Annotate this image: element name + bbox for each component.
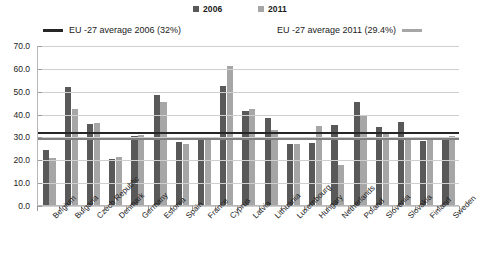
bar-group <box>38 46 60 205</box>
bar-group <box>260 46 282 205</box>
bar-group <box>371 46 393 205</box>
gridline <box>38 92 459 93</box>
gridline <box>38 46 459 47</box>
bar-estonia-2011 <box>160 102 166 205</box>
y-axis-tickmark <box>38 115 42 116</box>
bar-estonia-2006 <box>154 95 160 205</box>
y-axis-tick-label: 40.0 <box>13 110 30 120</box>
bar-group <box>327 46 349 205</box>
bar-lithuania-2011 <box>271 130 277 205</box>
bar-group <box>216 46 238 205</box>
legend-entry-average-2006: EU -27 average 2006 (32%) <box>43 25 181 35</box>
legend-entry-2006: 2006 <box>193 4 222 14</box>
bar-france-2006 <box>198 139 204 205</box>
y-axis: 0.010.020.030.040.050.060.070.0 <box>0 46 34 206</box>
y-axis-tick-label: 50.0 <box>13 87 30 97</box>
y-axis-tick-label: 10.0 <box>13 178 30 188</box>
gridline <box>38 115 459 116</box>
bar-group <box>60 46 82 205</box>
y-axis-tickmark <box>38 183 42 184</box>
bar-belgium-2011 <box>49 158 55 205</box>
bar-group <box>149 46 171 205</box>
legend-label-2011: 2011 <box>268 4 287 14</box>
y-axis-tickmark <box>38 69 42 70</box>
x-axis-tickmark <box>37 206 38 211</box>
x-axis-labels: BelgiumBulgariaCzech RepublicDenmarkGerm… <box>37 212 459 278</box>
bar-group <box>193 46 215 205</box>
bar-group <box>82 46 104 205</box>
gridline <box>38 183 459 184</box>
bar-belgium-2006 <box>43 150 49 205</box>
y-axis-tickmark <box>38 160 42 161</box>
line-marker-icon <box>402 29 422 32</box>
bar-latvia-2006 <box>242 111 248 205</box>
bar-poland-2006 <box>354 102 360 205</box>
y-axis-tick-label: 0.0 <box>18 201 30 211</box>
bar-group <box>105 46 127 205</box>
bar-czech-republic-2011 <box>94 123 100 205</box>
line-marker-icon <box>43 29 63 32</box>
bar-group <box>438 46 460 205</box>
bar-group <box>393 46 415 205</box>
bar-slovenia-2011 <box>383 132 389 205</box>
bar-latvia-2011 <box>249 109 255 205</box>
reference-line-2006 <box>38 132 459 134</box>
bar-slovakia-2006 <box>398 122 404 205</box>
bar-sweden-2011 <box>449 136 455 205</box>
y-axis-tickmark <box>38 46 42 47</box>
legend-label-average-2006: EU -27 average 2006 (32%) <box>69 25 181 35</box>
legend-label-2006: 2006 <box>203 4 222 14</box>
series-legend: 2006 2011 <box>0 4 468 18</box>
bar-group <box>305 46 327 205</box>
bar-cyprus-2006 <box>220 86 226 205</box>
bar-spain-2011 <box>183 144 189 205</box>
average-legend: EU -27 average 2006 (32%) EU -27 average… <box>0 25 468 39</box>
square-marker-icon <box>193 6 199 12</box>
bar-france-2011 <box>205 139 211 205</box>
gridline <box>38 160 459 161</box>
legend-label-average-2011: EU -27 average 2011 (29.4%) <box>277 25 396 35</box>
legend-entry-average-2011: EU -27 average 2011 (29.4%) <box>277 25 422 35</box>
bar-bulgaria-2006 <box>65 87 71 205</box>
legend-entry-2011: 2011 <box>258 4 287 14</box>
y-axis-tick-label: 60.0 <box>13 64 30 74</box>
bar-group <box>171 46 193 205</box>
gridline <box>38 69 459 70</box>
reference-line-2011 <box>38 138 459 140</box>
y-axis-tick-label: 20.0 <box>13 155 30 165</box>
square-marker-icon <box>258 6 264 12</box>
y-axis-tick-label: 30.0 <box>13 132 30 142</box>
bar-group <box>349 46 371 205</box>
bar-group <box>238 46 260 205</box>
plot-area <box>37 46 459 206</box>
y-axis-tickmark <box>38 92 42 93</box>
bar-bulgaria-2011 <box>72 109 78 205</box>
bars-layer <box>38 46 459 205</box>
bar-group <box>416 46 438 205</box>
y-axis-tick-label: 70.0 <box>13 41 30 51</box>
bar-group <box>282 46 304 205</box>
